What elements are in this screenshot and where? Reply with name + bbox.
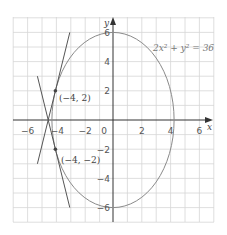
point-label-upper: (−4, 2)	[59, 93, 91, 103]
svg-text:−2: −2	[97, 145, 110, 155]
point-marker-lower	[54, 147, 58, 151]
x-axis-label: x	[207, 122, 212, 132]
svg-text:4: 4	[104, 57, 110, 67]
svg-text:−6: −6	[97, 203, 111, 213]
point-label-lower: (−4, −2)	[61, 155, 100, 165]
equation-label: 2x² + y² = 36	[152, 43, 214, 53]
svg-text:2: 2	[139, 126, 145, 136]
point-marker-upper	[54, 89, 58, 93]
svg-text:−4: −4	[51, 126, 65, 136]
svg-text:−2: −2	[79, 126, 92, 136]
svg-text:6: 6	[197, 126, 203, 136]
svg-text:−6: −6	[21, 126, 35, 136]
y-axis-arrow-icon	[110, 17, 116, 25]
svg-text:0: 0	[101, 126, 107, 136]
svg-text:2: 2	[104, 86, 110, 96]
chart-canvas: (−4, 2) (−4, −2) 2x² + y² = 36 x y −6 −4…	[0, 0, 227, 235]
svg-text:6: 6	[104, 28, 110, 38]
y-axis-label: y	[103, 18, 110, 28]
svg-text:4: 4	[168, 126, 174, 136]
svg-text:−4: −4	[97, 174, 111, 184]
